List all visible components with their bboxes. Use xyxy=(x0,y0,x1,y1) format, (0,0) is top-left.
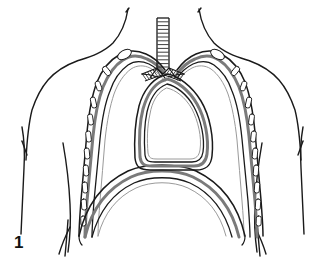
rib-segment xyxy=(83,165,89,176)
figure-number-label: 1 xyxy=(14,234,23,251)
rib-segment xyxy=(255,199,261,210)
rib-segment xyxy=(81,199,87,210)
rib-segment xyxy=(84,148,90,159)
rib-segment xyxy=(85,131,91,142)
rib-segment xyxy=(250,131,256,142)
rib-segment xyxy=(87,114,93,126)
rib-segment xyxy=(82,182,88,193)
rib-segment xyxy=(256,216,261,226)
rib-segment xyxy=(253,165,259,176)
thorax-anatomy-illustration xyxy=(0,0,324,271)
rib-segment xyxy=(248,114,254,126)
figure-container: 1 xyxy=(0,0,324,271)
rib-segment xyxy=(252,148,258,159)
rib-segment xyxy=(254,182,260,193)
